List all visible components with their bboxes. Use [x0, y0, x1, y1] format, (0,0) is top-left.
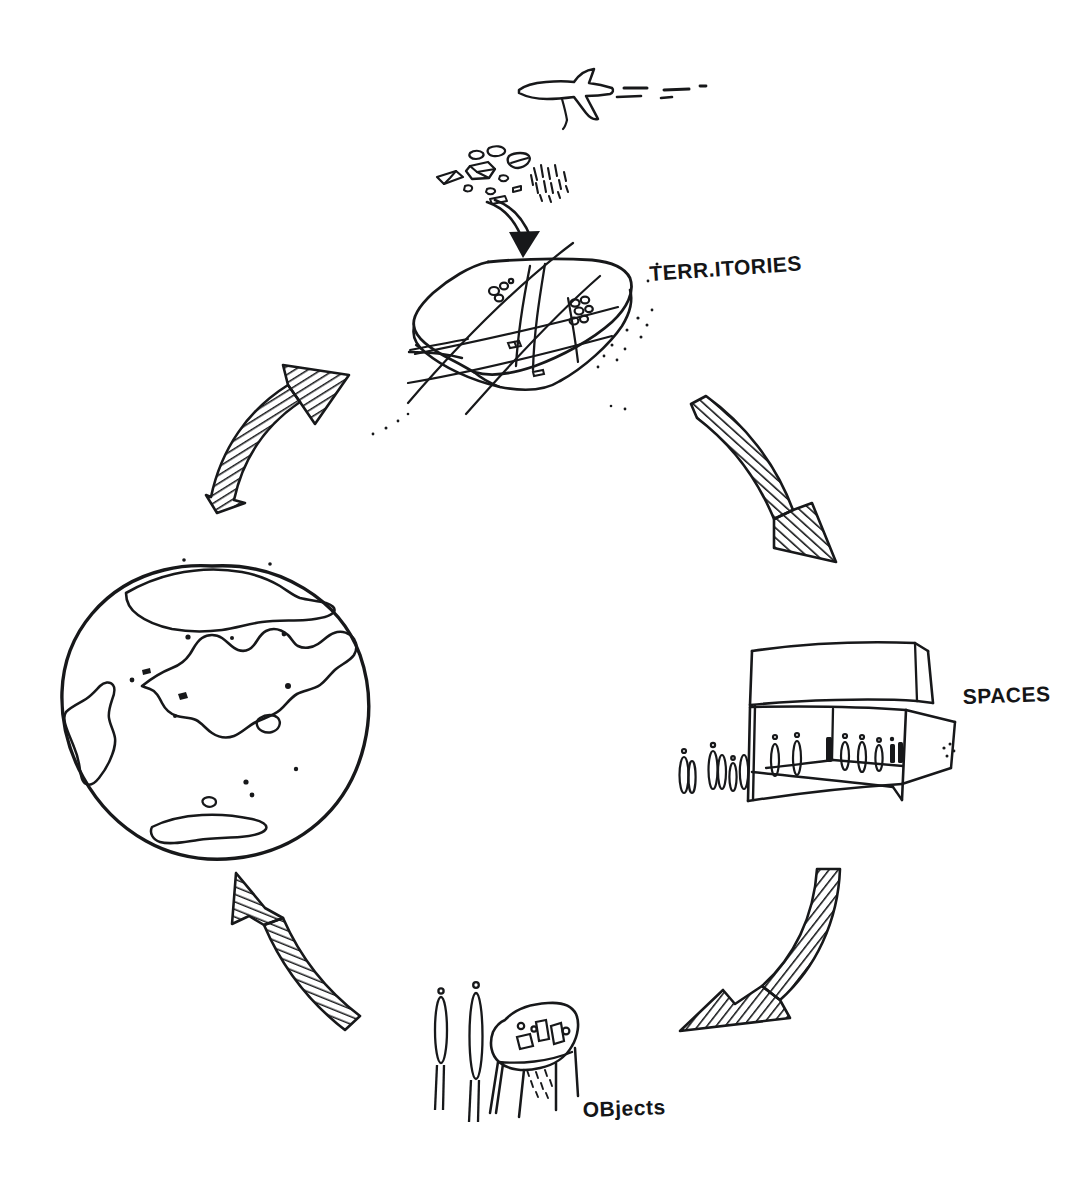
arrow-globe-to-territories — [206, 365, 349, 513]
spaces-label: SPACES — [962, 682, 1051, 708]
airplane-sketch — [519, 69, 613, 129]
arrow-territories-to-spaces — [691, 396, 836, 562]
territories-label: TERR.ITORIES — [649, 251, 803, 285]
sketch-canvas: TERR.ITORIES — [0, 0, 1087, 1189]
curved-down-arrow-icon — [487, 200, 540, 258]
building-interior-sketch — [680, 642, 956, 801]
arrow-objects-to-globe — [232, 873, 360, 1030]
objects-label: OBjects — [582, 1095, 666, 1121]
contrail-dashes — [617, 86, 706, 98]
arrow-spaces-to-objects — [680, 869, 840, 1031]
table-objects-sketch — [435, 982, 578, 1122]
globe-sketch — [62, 558, 369, 859]
rocks-debris-sketch — [437, 146, 568, 204]
terrain-slab-sketch — [372, 243, 659, 435]
